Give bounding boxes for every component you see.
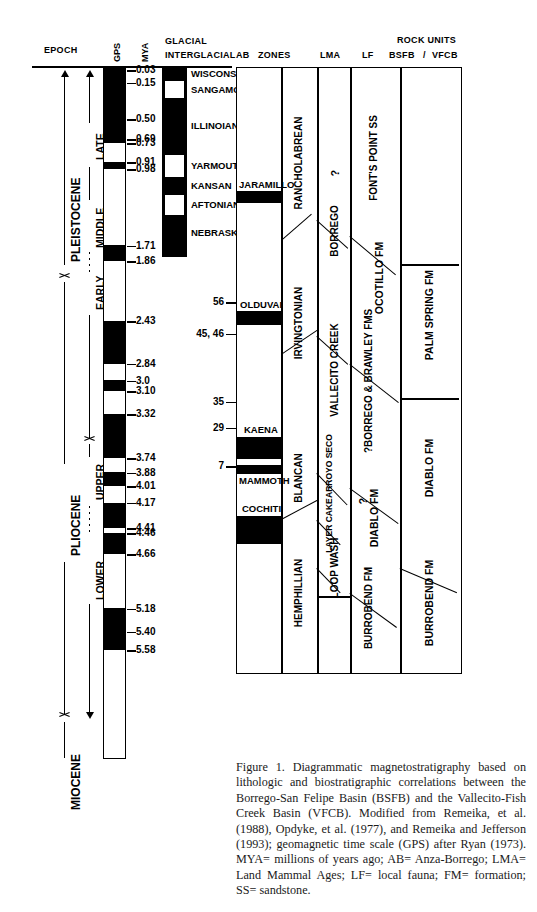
header-slash: / (423, 50, 426, 60)
subepoch-late-bar (89, 75, 90, 123)
gps-normal-band (104, 472, 125, 486)
mya-tick-label: 3.32 (136, 408, 155, 419)
ab-label-jaramillo: JARAMILLO (239, 179, 294, 190)
ab-zone-tick (226, 466, 237, 468)
mya-tick-label: 0.03 (136, 64, 155, 75)
gps-normal-band (104, 414, 125, 458)
subepoch-lower-bar (89, 604, 90, 714)
interglacial-block (165, 81, 184, 98)
interglacial-block (165, 195, 184, 215)
ab-label-cochiti: COCHITI (242, 503, 281, 514)
bsfb-label-ocotillo-fm: OCOTILLO FM (373, 218, 385, 338)
epoch-divider-2 (59, 710, 70, 719)
gps-normal-band (104, 162, 125, 169)
ab-label-kaena: KAENA (244, 424, 278, 435)
divider-lma-lf (317, 68, 319, 673)
mya-tick-label: 0.98 (136, 163, 155, 174)
mya-tick (127, 554, 136, 556)
mya-tick-label: 0.50 (136, 113, 155, 124)
epoch-label-pleistocene: PLEISTOCENE (69, 178, 83, 262)
mya-tick (127, 414, 136, 416)
ab-zone-tick (226, 302, 237, 304)
header-zones: ZONES (258, 50, 291, 60)
ab-zone-tick (226, 334, 237, 336)
ab-band-kaena (237, 437, 281, 459)
mya-tick-label: 1.71 (136, 240, 155, 251)
lf-label-vallecito-creek: VALLECITO CREEK (329, 290, 340, 450)
vfcb-label-palm-spring-fm: PALM SPRING FM (423, 250, 435, 380)
gps-normal-band (104, 321, 125, 364)
mya-tick (127, 169, 136, 171)
gps-normal-band (104, 608, 125, 650)
epoch-pleistocene-bar (64, 75, 65, 265)
mya-tick (127, 391, 136, 393)
header-epoch: EPOCH (44, 45, 78, 55)
gps-normal-band (104, 380, 125, 390)
lma-label-rancholabrean: RANCHOLABREAN (293, 83, 304, 243)
glacial-stage-label: ILLINOIAN (191, 120, 239, 131)
glacial-stage-label: KANSAN (191, 180, 232, 191)
ab-zone-tick-label: 45, 46 (178, 328, 224, 339)
mya-tick (127, 503, 136, 505)
divider-bsfb-vfcb (400, 68, 402, 673)
mya-tick (127, 246, 136, 248)
epoch-label-miocene: MIOCENE (69, 754, 83, 810)
header-lma: LMA (320, 50, 340, 60)
ab-label-olduvai: OLDUVAI (240, 299, 282, 310)
mya-tick-label: 2.84 (136, 358, 155, 369)
ab-zone-tick-label: 35 (178, 396, 224, 407)
subepoch-arrow-top (86, 70, 94, 77)
bsfb-label-fonts-point-ss: FONT'S POINT SS (367, 103, 380, 213)
gps-normal-band (104, 245, 125, 261)
mya-tick-label: 0.73 (136, 137, 155, 148)
header-glacial: GLACIAL (165, 36, 207, 46)
gps-normal-band (104, 67, 125, 143)
mya-tick (127, 533, 136, 535)
gps-normal-band (104, 533, 125, 554)
mya-tick-label: 5.58 (136, 644, 155, 655)
ab-zone-tick-label: 29 (178, 422, 224, 433)
mya-tick-label: 0.15 (136, 77, 155, 88)
mya-tick (127, 139, 136, 141)
ab-label-mammoth: MAMMOTH (239, 475, 290, 486)
mya-tick (127, 473, 136, 475)
ab-band-mammoth-upper (237, 465, 281, 474)
mya-tick-label: 4.46 (136, 527, 155, 538)
mya-tick (127, 528, 136, 530)
mya-tick (127, 486, 136, 488)
header-bsfb: BSFB (389, 50, 415, 60)
mya-tick (127, 70, 136, 72)
glacial-stage-label: AFTONIAN (191, 199, 240, 210)
header-rock-units: ROCK UNITS (397, 35, 456, 45)
mya-tick-label: 5.18 (136, 603, 155, 614)
mya-tick (127, 458, 136, 460)
ab-zone-tick-label: 7 (178, 460, 224, 471)
header-lf: LF (362, 50, 374, 60)
subepoch-late-bar2 (89, 167, 90, 200)
subepoch-arrow-bottom (86, 712, 94, 719)
subepoch-dots-1 (89, 252, 90, 272)
epoch-divider-1 (59, 271, 70, 280)
mya-tick-label: 4.01 (136, 480, 155, 491)
mya-tick-label: 3.74 (136, 452, 155, 463)
header-vfcb: VFCB (432, 50, 458, 60)
bsfb-label-borrego-brawley-fms: ?BORREGO & BRAWLEY FMS (362, 333, 375, 453)
subepoch-upper-bar (89, 444, 90, 457)
mya-tick-label: 5.40 (136, 626, 155, 637)
epoch-label-pliocene: PLIOCENE (69, 495, 83, 556)
mya-tick-label: 1.86 (136, 255, 155, 266)
mya-tick-label: 4.66 (136, 548, 155, 559)
divider-lf-bsfb (350, 68, 352, 673)
mya-tick (127, 650, 136, 652)
ab-band-olduvai (237, 311, 281, 325)
lf-label-borrego: BORREGO (329, 176, 340, 286)
ab-band-cochiti (237, 516, 281, 544)
glacial-column (162, 67, 187, 257)
mya-tick (127, 162, 136, 164)
mya-tick (127, 143, 136, 145)
mya-tick (127, 609, 136, 611)
mya-tick (127, 321, 136, 323)
bsfb-query-mark: ? (357, 489, 369, 513)
gps-polarity-column (103, 67, 126, 759)
subepoch-dots-2 (89, 506, 90, 536)
